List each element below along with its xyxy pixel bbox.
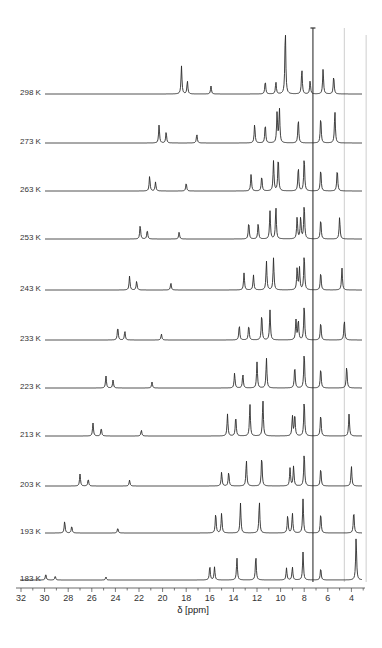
x-axis-title: δ [ppm] — [177, 604, 209, 615]
tick-label: 28 — [63, 593, 73, 603]
x-axis-ticks: 323028262422201816141210864 — [16, 588, 363, 603]
spectrum-trace — [45, 356, 362, 388]
spectrum-trace — [45, 35, 362, 94]
tick-label: 20 — [158, 593, 168, 603]
spectrum-trace — [45, 207, 362, 239]
temperature-label: 203 K — [20, 480, 42, 489]
tick-label: 4 — [349, 593, 354, 603]
tick-label: 30 — [40, 593, 50, 603]
tick-label: 14 — [228, 593, 238, 603]
spectrum-trace — [45, 308, 362, 340]
spectrum-trace — [45, 258, 362, 290]
spectrum-trace — [20, 539, 362, 580]
tick-label: 26 — [87, 593, 97, 603]
temperature-label: 193 K — [20, 527, 42, 536]
tick-label: 8 — [302, 593, 307, 603]
temperature-label: 253 K — [20, 233, 42, 242]
spectrum-trace — [45, 401, 362, 436]
temperature-label: 273 K — [20, 137, 42, 146]
tick-label: 32 — [16, 593, 26, 603]
spectrum-trace — [45, 161, 362, 192]
temperature-label: 213 K — [20, 430, 42, 439]
tick-label: 10 — [276, 593, 286, 603]
tick-label: 18 — [181, 593, 191, 603]
temperature-label: 223 K — [20, 382, 42, 391]
tick-label: 6 — [325, 593, 330, 603]
x-axis: 323028262422201816141210864 δ [ppm] — [16, 588, 365, 615]
reference-lines — [310, 28, 366, 582]
temperature-label: 183 K — [20, 574, 42, 583]
temperature-label: 243 K — [20, 284, 42, 293]
tick-label: 22 — [134, 593, 144, 603]
spectra-traces — [20, 35, 362, 580]
tick-label: 16 — [205, 593, 215, 603]
spectrum-trace — [45, 456, 362, 486]
nmr-stacked-spectra-chart: 298 K273 K263 K253 K243 K233 K223 K213 K… — [0, 0, 382, 648]
spectrum-trace — [45, 108, 362, 143]
tick-label: 12 — [252, 593, 262, 603]
temperature-labels: 298 K273 K263 K253 K243 K233 K223 K213 K… — [20, 88, 42, 583]
temperature-label: 233 K — [20, 334, 42, 343]
temperature-label: 298 K — [20, 88, 42, 97]
temperature-label: 263 K — [20, 185, 42, 194]
spectrum-trace — [45, 499, 362, 533]
tick-label: 24 — [110, 593, 120, 603]
